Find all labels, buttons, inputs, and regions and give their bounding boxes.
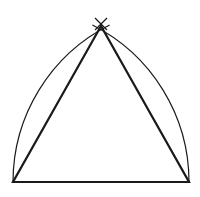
construction-diagram	[0, 0, 200, 197]
diagram-svg	[0, 0, 200, 197]
equilateral-triangle	[13, 26, 189, 182]
